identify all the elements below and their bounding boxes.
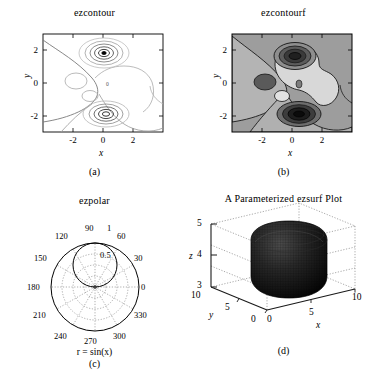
polar-equation: r = sin(x) [0, 347, 189, 357]
polar-tick-300: 300 [113, 331, 126, 341]
panel-d-caption: (d) [189, 345, 378, 356]
panel-b-xtick-0: 0 [280, 135, 304, 145]
figure-container: ezcontour [0, 0, 378, 381]
panel-a-ylabel: y [22, 74, 32, 78]
ezcontourf-plot [189, 0, 378, 190]
panel-ezsurf: A Parameterized ezsurf Plot [189, 190, 378, 381]
polar-rtick-1: 1 [107, 223, 111, 233]
polar-tick-120: 120 [55, 231, 68, 241]
panel-b-ylabel: y [211, 74, 221, 78]
panel-d-ztick-3: 3 [197, 280, 202, 290]
panel-c-caption: (c) [0, 358, 189, 369]
ezcontour-plot: 0 [0, 0, 189, 190]
polar-tick-240: 240 [54, 331, 67, 341]
panel-ezpolar: ezpolar [0, 190, 189, 381]
panel-d-ytick-0: 0 [251, 314, 256, 324]
panel-a-xtick-0: 0 [91, 135, 115, 145]
panel-b-ytick-2: 2 [201, 45, 227, 55]
panel-d-ytick-5: 5 [225, 302, 230, 312]
panel-d-ztick-4: 4 [197, 249, 202, 259]
panel-d-ztick-5: 5 [197, 218, 202, 228]
panel-b-ytick-neg2: -2 [197, 111, 227, 121]
panel-a-ytick-0: 0 [12, 78, 38, 88]
polar-tick-30: 30 [134, 253, 143, 263]
panel-b-xtick-neg2: -2 [250, 135, 274, 145]
panel-d-xtick-0: 0 [267, 314, 272, 324]
panel-d-zlabel: z [189, 251, 193, 261]
panel-a-ytick-2: 2 [12, 45, 38, 55]
panel-a-caption: (a) [0, 166, 189, 177]
polar-tick-60: 60 [117, 231, 126, 241]
panel-ezcontour: ezcontour [0, 0, 189, 190]
polar-tick-0: 0 [141, 282, 145, 292]
polar-tick-180: 180 [27, 282, 40, 292]
panel-b-caption: (b) [189, 166, 378, 177]
contour-inline-label: 0 [106, 81, 109, 87]
polar-tick-270: 270 [84, 336, 97, 346]
polar-tick-90: 90 [85, 223, 94, 233]
panel-d-xtick-10: 10 [352, 292, 362, 302]
polar-rtick-0point5: 0.5 [100, 250, 111, 260]
panel-d-ylabel: y [209, 310, 213, 320]
panel-a-xtick-neg2: -2 [61, 135, 85, 145]
panel-a-ytick-neg2: -2 [8, 111, 38, 121]
panel-a-xlabel: x [99, 148, 103, 158]
polar-tick-330: 330 [134, 310, 147, 320]
polar-tick-150: 150 [34, 253, 47, 263]
panel-d-ytick-10: 10 [191, 290, 201, 300]
panel-d-xlabel: x [316, 320, 320, 330]
panel-ezcontourf: ezcontourf [189, 0, 378, 190]
panel-b-xlabel: x [288, 148, 292, 158]
panel-a-xtick-2: 2 [121, 135, 145, 145]
panel-b-xtick-2: 2 [310, 135, 334, 145]
panel-d-xtick-5: 5 [309, 307, 314, 317]
panel-b-ytick-0: 0 [201, 78, 227, 88]
polar-tick-210: 210 [33, 310, 46, 320]
